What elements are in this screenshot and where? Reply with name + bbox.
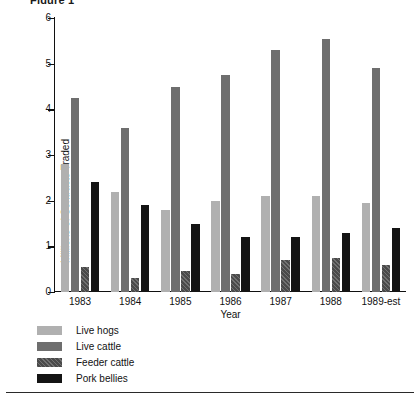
- legend-label: Feeder cattle: [76, 357, 134, 368]
- bar-group: [362, 18, 401, 292]
- x-axis-title: Year: [220, 309, 240, 320]
- legend-label: Live hogs: [76, 325, 119, 336]
- bar: [312, 196, 321, 292]
- legend-swatch: [37, 326, 62, 335]
- x-tick-label: 1988: [320, 296, 342, 307]
- bar-group: [211, 18, 250, 292]
- bar: [372, 68, 381, 292]
- bar: [362, 203, 371, 292]
- x-tick-label: 1989-est: [361, 296, 400, 307]
- bar: [161, 210, 170, 292]
- bar: [181, 271, 190, 292]
- bar: [81, 267, 90, 292]
- y-tick-label: 1: [45, 241, 51, 251]
- bar: [281, 260, 290, 292]
- bar: [71, 98, 80, 292]
- bar: [131, 278, 140, 292]
- y-tick-label: 4: [45, 104, 51, 114]
- legend-swatch: [37, 358, 62, 367]
- footer-divider: [6, 392, 414, 393]
- legend-label: Live cattle: [76, 341, 121, 352]
- bar-chart: Millions of Contracts Traded 0123456 198…: [0, 0, 418, 402]
- bar: [211, 201, 220, 292]
- y-tick-label: 2: [45, 196, 51, 206]
- legend-label: Pork bellies: [76, 373, 128, 384]
- legend: Live hogsLive cattleFeeder cattlePork be…: [37, 322, 134, 386]
- bar: [392, 228, 401, 292]
- bar: [191, 224, 200, 293]
- bar: [91, 182, 100, 292]
- legend-item: Pork bellies: [37, 370, 134, 386]
- plot-area: 0123456: [55, 18, 406, 292]
- bar: [171, 87, 180, 293]
- bar: [322, 39, 331, 292]
- bar: [261, 196, 270, 292]
- bar-group: [261, 18, 300, 292]
- bar: [332, 258, 341, 292]
- bar-group: [161, 18, 200, 292]
- y-tick-label: 5: [45, 59, 51, 69]
- bar-group: [61, 18, 100, 292]
- legend-item: Feeder cattle: [37, 354, 134, 370]
- y-tick-label: 0: [45, 287, 51, 297]
- bar: [271, 50, 280, 292]
- legend-item: Live hogs: [37, 322, 134, 338]
- bar: [241, 237, 250, 292]
- bar-group: [312, 18, 351, 292]
- bar: [141, 205, 150, 292]
- bar: [231, 274, 240, 292]
- bar: [221, 75, 230, 292]
- bar: [291, 237, 300, 292]
- x-tick-label: 1987: [270, 296, 292, 307]
- y-tick-label: 3: [45, 150, 51, 160]
- bar: [61, 164, 70, 292]
- bar: [382, 265, 391, 292]
- bar: [342, 233, 351, 292]
- x-tick-label: 1983: [69, 296, 91, 307]
- bar: [121, 128, 130, 292]
- bar: [111, 192, 120, 292]
- bar-group: [111, 18, 150, 292]
- legend-swatch: [37, 374, 62, 383]
- legend-item: Live cattle: [37, 338, 134, 354]
- x-tick-label: 1984: [119, 296, 141, 307]
- y-tick-label: 6: [45, 13, 51, 23]
- x-tick-label: 1986: [219, 296, 241, 307]
- legend-swatch: [37, 342, 62, 351]
- x-tick-label: 1985: [169, 296, 191, 307]
